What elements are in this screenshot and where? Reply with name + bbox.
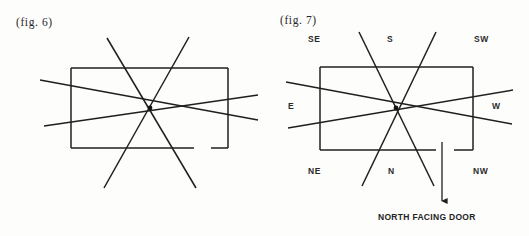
ray-sw-top-right [104,37,189,188]
compass-label-s: S [387,34,393,44]
figure-drawing-fig7 [264,0,529,236]
ray-w-shallow [288,90,513,128]
compass-label-n: N [388,166,395,176]
figure-page: (fig. 6) (fig. 7) [0,0,529,236]
center-node [394,106,399,111]
compass-label-nw: NW [473,166,488,176]
compass-label-e: E [288,101,294,111]
figure-drawing-fig6 [0,0,264,236]
compass-label-se: SE [308,34,320,44]
compass-label-w: W [492,101,501,111]
compass-label-ne: NE [308,166,321,176]
figure-panel-fig7: (fig. 7) SE [264,0,529,236]
north-facing-door-caption: NORTH FACING DOOR [378,212,476,222]
ray-se-top-left [107,38,196,188]
compass-label-sw: SW [474,34,489,44]
figure-panel-fig6: (fig. 6) [0,0,264,236]
center-node [148,106,153,111]
